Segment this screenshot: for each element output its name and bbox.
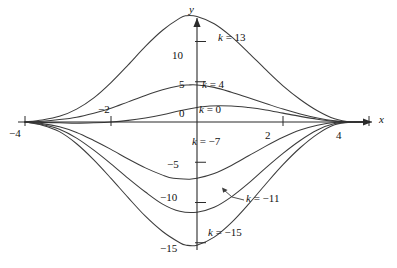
curve-label-k13-value: = 13	[223, 31, 246, 43]
curve-label-kneg11: k = −11	[246, 193, 279, 204]
y-tick-label-neg5: −5	[167, 159, 179, 170]
curve-label-k4: k = 4	[202, 79, 224, 90]
y-tick-label-neg15: −15	[160, 243, 177, 254]
y-tick-label-10: 10	[172, 50, 183, 61]
y-tick-label-0: 0	[179, 108, 185, 119]
curve-label-k4-value: = 4	[207, 78, 224, 90]
curve-label-k0-value: = 0	[204, 103, 221, 115]
y-tick-label-neg10: −10	[160, 192, 177, 203]
x-tick-label-neg2: −2	[98, 104, 110, 115]
curve-label-k13: k = 13	[218, 32, 246, 43]
y-axis-arrow-icon	[193, 18, 200, 27]
curve-label-kneg7: k = −7	[192, 136, 220, 147]
curve-label-kneg7-value: = −7	[197, 135, 220, 147]
curve-label-kneg15-value: = −15	[213, 226, 242, 238]
y-tick-label-5: 5	[179, 79, 185, 90]
curve-label-kneg11-value: = −11	[251, 192, 280, 204]
curve-family-figure: y x −4 −2 2 4 10 5 0 −5 −10 −15 k = 13 k…	[0, 0, 397, 268]
curve-label-kneg15: k = −15	[208, 227, 242, 238]
x-axis-arrow-icon	[363, 118, 372, 125]
x-tick-label-4: 4	[336, 130, 342, 141]
curve-label-k0: k = 0	[199, 104, 221, 115]
y-axis-label: y	[189, 4, 194, 15]
x-axis-label: x	[379, 114, 384, 125]
axes-group	[18, 18, 372, 250]
x-tick-label-2: 2	[265, 130, 271, 141]
x-tick-label-neg4: −4	[9, 128, 21, 139]
